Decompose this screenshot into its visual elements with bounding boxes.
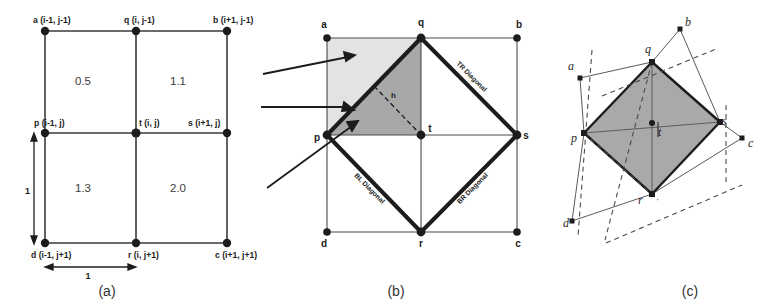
node-label-b: b (i+1, j-1) [213, 15, 253, 25]
node-label-r: r (i, j+1) [128, 250, 159, 260]
node-label-p: p (i-1, j) [34, 118, 65, 128]
br-diagonal-edge [421, 135, 517, 232]
panel-a: a (i-1, j-1) q (i, j-1) b (i+1, j-1) p (… [0, 0, 258, 303]
vertex-label-p: p [314, 132, 320, 143]
node-label-s: s (i+1, j) [188, 118, 220, 128]
vertex-label-s: s [523, 130, 529, 141]
panel-b: h a q b p t s d r c A [258, 0, 530, 303]
vertex-label-c: c [515, 238, 521, 249]
node-label-d: d (i-1, j+1) [31, 250, 71, 260]
vertex-label-b: b [516, 19, 522, 30]
horizontal-dimension-arrow [45, 264, 136, 270]
cell-value-bottom-left: 1.3 [75, 182, 91, 194]
vertex-label-c: c [748, 136, 754, 150]
figure-container: a (i-1, j-1) q (i, j-1) b (i+1, j-1) p (… [0, 0, 778, 303]
vertical-dimension-label: 1 [25, 186, 30, 196]
vertex-label-r: r [638, 193, 643, 207]
tr-diagonal-edge [421, 38, 517, 135]
vertex-label-a: a [321, 19, 327, 30]
vertex-label-q: q [418, 17, 424, 28]
vertex-label-b: b [685, 15, 691, 29]
vertex-label-d: d [563, 216, 570, 230]
diagonal-label-br: BR Diagonal [455, 171, 489, 205]
node-label-t: t (i, j) [139, 118, 160, 128]
vertex-label-p: p [570, 131, 577, 145]
panel-c: a b q p s c d r t (c) [530, 0, 778, 303]
panel-c-svg: a b q p s c d r t [530, 0, 778, 303]
node-label-a: a (i-1, j-1) [33, 15, 71, 25]
panel-a-svg: a (i-1, j-1) q (i, j-1) b (i+1, j-1) p (… [0, 0, 258, 303]
panel-b-caption: (b) [260, 283, 532, 299]
vertex-label-t: t [428, 123, 432, 134]
cell-value-bottom-right: 2.0 [170, 182, 186, 194]
vertex-label-d: d [321, 238, 327, 249]
vertex-label-r: r [419, 238, 423, 249]
bl-diagonal-edge [327, 135, 421, 232]
cell-value-top-right: 1.1 [170, 75, 186, 87]
panel-a-caption: (a) [0, 283, 236, 299]
panel-c-caption: (c) [566, 283, 778, 299]
cell-value-top-left: 0.5 [75, 75, 91, 87]
node-label-q: q (i, j-1) [124, 15, 155, 25]
h-label: h [391, 91, 396, 100]
node-label-c: c (i+1, j+1) [215, 250, 257, 260]
vertex-label-q: q [645, 42, 651, 56]
vertex-label-s: s [722, 114, 727, 128]
vertex-label-a: a [568, 59, 574, 73]
vertical-dimension-arrow [31, 133, 37, 244]
horizontal-dimension-label: 1 [85, 271, 90, 281]
panel-b-svg: h a q b p t s d r c A [258, 0, 530, 303]
